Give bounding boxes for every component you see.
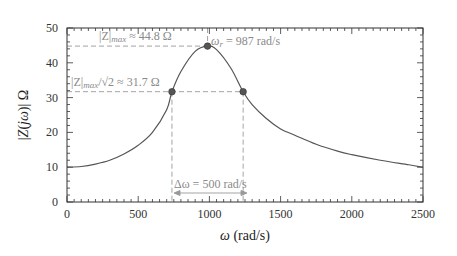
tick-labels: 0500100015002000250001020304050 xyxy=(46,21,435,221)
svg-text:0: 0 xyxy=(52,195,58,209)
svg-text:50: 50 xyxy=(46,21,58,35)
svg-text:2000: 2000 xyxy=(340,207,364,221)
data-point-marker xyxy=(204,43,211,50)
annotation-guides xyxy=(67,28,243,202)
data-point-marker xyxy=(169,88,176,95)
half-power-annotation: |Z|max/√2 ≈ 31.7 Ω xyxy=(71,75,160,90)
impedance-chart: 0500100015002000250001020304050 |Z|max ≈… xyxy=(0,0,457,256)
zmax-annotation: |Z|max ≈ 44.8 Ω xyxy=(99,29,172,44)
svg-text:500: 500 xyxy=(129,207,147,221)
bandwidth-arrow xyxy=(174,191,247,196)
svg-text:20: 20 xyxy=(46,125,58,139)
svg-text:30: 30 xyxy=(46,91,58,105)
data-markers xyxy=(169,43,247,95)
svg-text:1000: 1000 xyxy=(197,207,221,221)
svg-text:0: 0 xyxy=(64,207,70,221)
svg-text:1500: 1500 xyxy=(269,207,293,221)
data-point-marker xyxy=(240,88,247,95)
plot-frame xyxy=(67,28,423,202)
svg-text:40: 40 xyxy=(46,56,58,70)
svg-text:10: 10 xyxy=(46,160,58,174)
svg-text:2500: 2500 xyxy=(411,207,435,221)
omega-r-annotation: ωr = 987 rad/s xyxy=(211,34,280,49)
impedance-curve xyxy=(67,46,423,167)
axis-ticks xyxy=(67,28,423,202)
y-axis-label: |Z(jω)| Ω xyxy=(16,90,32,140)
x-axis-label: ω (rad/s) xyxy=(220,228,270,244)
bandwidth-annotation: Δω = 500 rad/s xyxy=(174,177,247,191)
